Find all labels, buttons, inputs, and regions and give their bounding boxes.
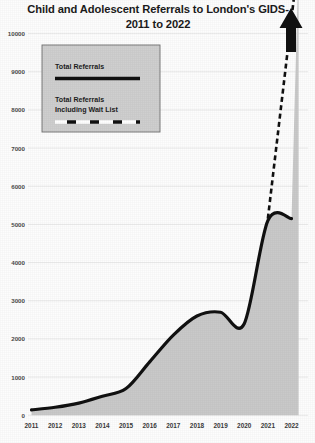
x-axis-labels: 2011201220132014201520162017201820192020… [25, 422, 299, 429]
chart-legend: Total Referrals Total Referrals Includin… [42, 45, 160, 132]
x-tick-2012: 2012 [48, 422, 63, 429]
x-tick-2015: 2015 [119, 422, 134, 429]
y-tick-0: 0 [22, 412, 26, 419]
x-tick-2014: 2014 [95, 422, 110, 429]
x-tick-2020: 2020 [237, 422, 252, 429]
x-tick-2018: 2018 [190, 422, 205, 429]
legend-label-wait-list-line-2: Including Wait List [55, 106, 118, 114]
y-tick-4000: 4000 [11, 259, 25, 266]
chart-plot-area: 10000 9000 8000 7000 6000 5000 4000 3000… [0, 0, 315, 443]
x-tick-2013: 2013 [72, 422, 87, 429]
y-tick-8000: 8000 [11, 106, 25, 113]
y-tick-5000: 5000 [11, 221, 25, 228]
y-tick-3000: 3000 [11, 297, 25, 304]
legend-box [42, 45, 160, 132]
x-tick-2019: 2019 [213, 422, 228, 429]
y-tick-2000: 2000 [11, 335, 25, 342]
y-tick-7000: 7000 [11, 145, 25, 152]
y-tick-1000: 1000 [11, 374, 25, 381]
chart-container: Child and Adolescent Referrals to London… [0, 0, 315, 443]
x-tick-2021: 2021 [261, 422, 276, 429]
legend-label-wait-list-line-1: Total Referrals [55, 96, 104, 104]
y-tick-10000: 10000 [8, 30, 26, 37]
y-axis-labels: 10000 9000 8000 7000 6000 5000 4000 3000… [8, 30, 26, 419]
x-tick-2016: 2016 [143, 422, 158, 429]
up-arrow-icon [280, 8, 303, 52]
legend-label-total-referrals: Total Referrals [55, 63, 104, 71]
x-tick-2011: 2011 [25, 422, 39, 429]
y-tick-6000: 6000 [11, 183, 25, 190]
x-tick-2022: 2022 [284, 422, 299, 429]
y-tick-9000: 9000 [11, 68, 25, 75]
x-tick-2017: 2017 [166, 422, 181, 429]
